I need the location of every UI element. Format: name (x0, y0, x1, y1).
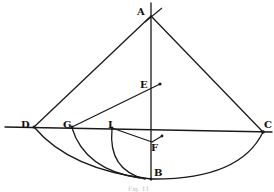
label-b: B (154, 167, 162, 178)
line-ac (151, 16, 263, 132)
label-c: C (264, 119, 272, 130)
point-c (261, 130, 265, 134)
arc-c-b (151, 132, 263, 179)
label-a: A (136, 6, 145, 17)
arrow-head-e (158, 82, 161, 85)
label-d: D (21, 119, 30, 130)
horizontal-line-dc (5, 127, 272, 132)
geometry-diagram: A E D G I F C B Fig. 11 (0, 0, 274, 192)
point-d (33, 126, 36, 129)
line-ge (72, 84, 160, 127)
label-f: F (151, 142, 158, 153)
point-b (150, 178, 153, 181)
arc-i-b (112, 129, 145, 179)
arc-d-b (34, 127, 151, 179)
tangent-tick-a (145, 8, 162, 22)
label-i: I (108, 119, 113, 130)
label-g: G (63, 119, 72, 130)
line-da (34, 16, 151, 127)
arrow-head-f (161, 135, 164, 138)
figure-caption: Fig. 11 (128, 185, 149, 192)
label-e: E (140, 79, 148, 90)
